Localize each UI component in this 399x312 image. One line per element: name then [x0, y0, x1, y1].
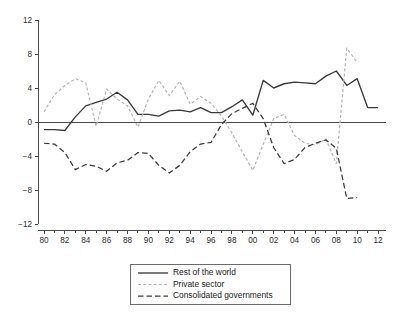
- x-tick-label: 86: [102, 236, 112, 245]
- y-tick-label: −4: [23, 152, 33, 161]
- x-tick-label: 12: [374, 236, 384, 245]
- x-tick-label: 92: [165, 236, 175, 245]
- y-tick-label: 12: [23, 16, 33, 25]
- chart-container: 12840−4−8−12 808284868890929496980002040…: [0, 0, 399, 312]
- y-tick-label: 4: [27, 84, 32, 93]
- x-tick-label: 02: [269, 236, 279, 245]
- x-tick-label: 06: [311, 236, 321, 245]
- legend-label-2: Consolidated governments: [173, 290, 273, 300]
- legend-label-0: Rest of the world: [173, 267, 236, 277]
- legend-label-1: Private sector: [173, 279, 224, 289]
- x-tick-label: 80: [39, 236, 49, 245]
- y-tick-label: −12: [18, 220, 32, 229]
- x-tick-label: 84: [81, 236, 91, 245]
- y-tick-label: 8: [27, 50, 32, 59]
- x-tick-label: 90: [144, 236, 154, 245]
- line-chart: 12840−4−8−12 808284868890929496980002040…: [0, 0, 399, 312]
- x-tick-label: 98: [227, 236, 237, 245]
- x-tick-label: 88: [123, 236, 133, 245]
- x-tick-label: 00: [248, 236, 258, 245]
- x-tick-label: 96: [206, 236, 216, 245]
- y-tick-label: 0: [27, 118, 32, 127]
- x-tick-label: 08: [332, 236, 342, 245]
- y-tick-label: −8: [23, 186, 33, 195]
- x-tick-label: 94: [186, 236, 196, 245]
- x-tick-label: 04: [290, 236, 300, 245]
- x-tick-label: 82: [60, 236, 70, 245]
- chart-legend: Rest of the worldPrivate sectorConsolida…: [130, 264, 290, 304]
- x-tick-label: 10: [353, 236, 363, 245]
